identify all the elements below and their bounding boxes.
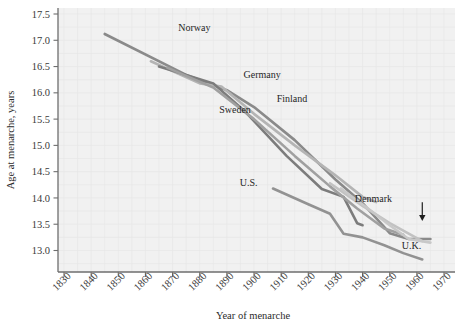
- series-label-uk: U.K.: [402, 240, 421, 251]
- y-tick-label: 17.0: [32, 35, 50, 46]
- x-tick-label: 1850: [104, 270, 127, 293]
- y-tick-label: 16.0: [32, 87, 50, 98]
- y-tick-labels: 13.013.514.014.515.015.516.016.517.017.5: [32, 9, 50, 257]
- y-tick-label: 15.5: [32, 114, 50, 125]
- series-label-germany: Germany: [244, 69, 281, 80]
- x-tick-label: 1950: [376, 270, 399, 293]
- x-tick-label: 1830: [50, 270, 73, 293]
- y-axis-title: Age at menarche, years: [5, 91, 16, 190]
- x-tick-label: 1960: [403, 270, 426, 293]
- x-tick-label: 1910: [267, 270, 290, 293]
- x-tick-label: 1840: [77, 270, 100, 293]
- x-tick-label: 1970: [430, 270, 453, 293]
- y-tick-label: 17.5: [32, 9, 50, 20]
- x-tick-label: 1880: [186, 270, 209, 293]
- series-label-finland: Finland: [277, 93, 308, 104]
- menarche-line-chart: 13.013.514.014.515.015.516.016.517.017.5…: [0, 0, 462, 327]
- y-tick-label: 13.5: [32, 219, 50, 230]
- x-tick-labels: 1830184018501860187018801890190019101920…: [50, 270, 453, 293]
- y-tick-label: 13.0: [32, 245, 50, 256]
- x-tick-label: 1930: [322, 270, 345, 293]
- series-label-sweden: Sweden: [219, 104, 251, 115]
- x-tick-label: 1870: [159, 270, 182, 293]
- y-tick-label: 14.0: [32, 193, 50, 204]
- x-tick-label: 1940: [349, 270, 372, 293]
- x-tick-label: 1860: [132, 270, 155, 293]
- chart-container: 13.013.514.014.515.015.516.016.517.017.5…: [0, 0, 462, 327]
- x-tick-label: 1920: [294, 270, 317, 293]
- series-label-us: U.S.: [240, 177, 258, 188]
- y-tick-label: 15.0: [32, 140, 50, 151]
- y-tick-label: 16.5: [32, 61, 50, 72]
- x-tick-label: 1900: [240, 270, 263, 293]
- series-label-denmark: Denmark: [355, 193, 392, 204]
- x-axis-title: Year of menarche: [216, 310, 290, 321]
- series-label-norway: Norway: [178, 22, 210, 33]
- x-tick-label: 1890: [213, 270, 236, 293]
- y-tick-label: 14.5: [32, 166, 50, 177]
